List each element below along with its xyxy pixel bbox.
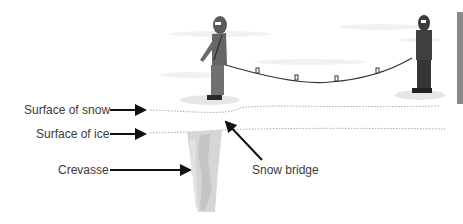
side-bar — [457, 12, 463, 104]
label-surface-of-ice: Surface of ice — [36, 127, 109, 141]
label-crevasse: Crevasse — [58, 163, 109, 177]
climber-left-icon — [200, 16, 227, 100]
snow-haze — [160, 24, 440, 78]
arrow-snow-bridge — [226, 122, 262, 160]
rope-knots — [256, 68, 379, 81]
snow-surface-line — [150, 106, 440, 112]
crevasse-shape — [187, 130, 222, 212]
label-surface-of-snow: Surface of snow — [24, 103, 110, 117]
label-snow-bridge: Snow bridge — [252, 163, 319, 177]
